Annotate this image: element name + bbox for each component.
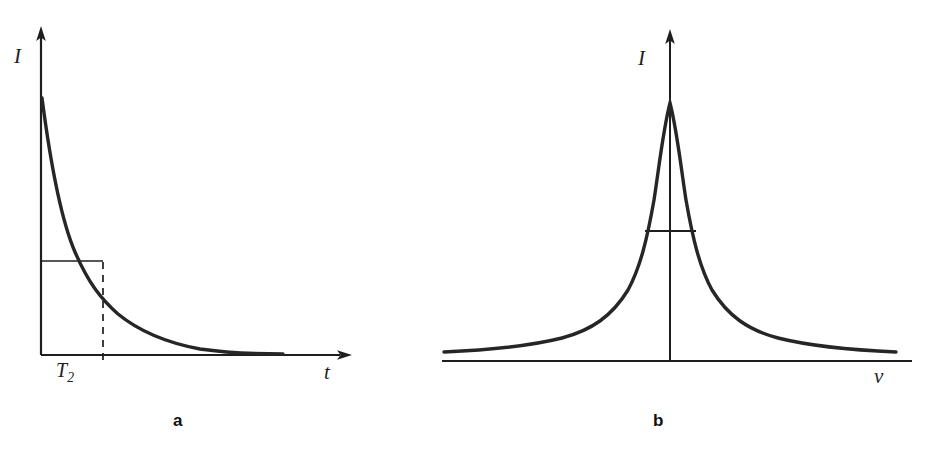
panel-a-plot: [0, 0, 430, 461]
panel-a-x-axis-label: t: [324, 362, 330, 383]
panel-b-letter: b: [653, 412, 663, 429]
panel-a-decay-curve: [42, 98, 283, 354]
panel-b-y-axis-label: I: [638, 48, 645, 69]
panel-a-y-axis: [36, 26, 46, 355]
panel-b-y-axis: [665, 29, 675, 360]
panel-a-x-axis: [41, 350, 352, 360]
panel-a-y-axis-label: I: [14, 46, 21, 67]
panel-b-x-axis-label: ν: [874, 366, 883, 387]
panel-b-lorentzian-lineshape: I ν 1 π · T2 b: [430, 0, 930, 461]
panel-b-plot: [430, 0, 930, 461]
panel-a-letter: a: [173, 412, 182, 429]
panel-a-t2-tick-label: T2: [56, 360, 74, 385]
figure-root: I t T2 a I ν 1 π · T2 b: [0, 0, 930, 461]
panel-a-exponential-decay: I t T2 a: [0, 0, 430, 461]
